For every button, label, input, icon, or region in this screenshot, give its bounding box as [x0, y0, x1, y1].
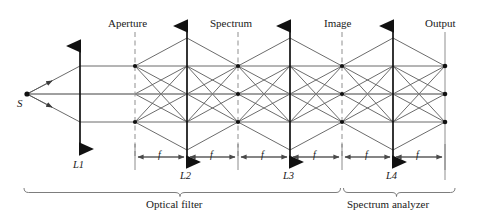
diagram-canvas	[0, 0, 481, 220]
lens-label-l1: L1	[73, 160, 84, 171]
plane-label-spectrum: Spectrum	[210, 18, 252, 29]
lens-label-l2: L2	[180, 171, 191, 182]
dimension-label-f-5: f	[365, 150, 368, 160]
dimension-label-f-6: f	[416, 150, 419, 160]
dimension-label-f-3: f	[261, 150, 264, 160]
source-label: S	[17, 98, 23, 109]
plane-label-output: Output	[425, 18, 456, 29]
brace-spectrum-analyzer	[344, 188, 456, 197]
dimension-label-f-2: f	[210, 150, 213, 160]
dimension-label-f-1: f	[158, 150, 161, 160]
plane-image	[340, 32, 344, 156]
plane-spectrum	[236, 32, 240, 156]
optical-ray-diagram: Aperture Spectrum Image Output S L1 L2 L…	[0, 0, 481, 220]
group-label-spectrum-analyzer: Spectrum analyzer	[347, 199, 429, 210]
lens-label-l4: L4	[386, 171, 397, 182]
plane-label-aperture: Aperture	[108, 18, 147, 29]
brace-optical-filter	[24, 188, 341, 197]
lens-label-l3: L3	[283, 171, 294, 182]
group-label-optical-filter: Optical filter	[146, 199, 203, 210]
source-point	[24, 91, 29, 96]
plane-label-image: Image	[324, 18, 351, 29]
dimension-label-f-4: f	[313, 150, 316, 160]
